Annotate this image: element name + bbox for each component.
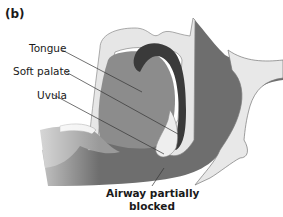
uvula-label: Uvula: [37, 89, 67, 101]
soft-palate-label: Soft palate: [13, 65, 70, 77]
airway-label-line1: Airway partially: [106, 187, 198, 200]
panel-label: (b): [5, 7, 25, 21]
tongue-label: Tongue: [29, 42, 67, 54]
airway-label: Airway partially blocked: [106, 187, 198, 213]
airway-label-line2: blocked: [106, 200, 198, 213]
airway-anatomy-illustration: [0, 0, 283, 217]
